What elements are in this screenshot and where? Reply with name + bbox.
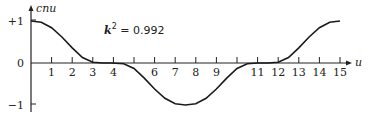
x-tick-label: 11 <box>251 66 265 79</box>
y-tick-label: −1 <box>8 99 24 112</box>
x-tick-label: 7 <box>172 66 179 79</box>
y-axis-arrow-icon <box>29 5 34 11</box>
x-tick-label: 6 <box>151 66 158 79</box>
x-tick-label: 2 <box>69 66 76 79</box>
x-axis-arrow-icon <box>346 61 352 66</box>
x-tick-label: 8 <box>192 66 199 79</box>
x-tick-label: 9 <box>213 66 220 79</box>
y-tick-label: +1 <box>8 15 24 28</box>
x-tick-label: 13 <box>292 66 306 79</box>
x-tick-label: 3 <box>89 66 96 79</box>
x-tick-label: 1 <box>48 66 55 79</box>
axes <box>29 5 353 112</box>
x-tick-label: 4 <box>110 66 117 79</box>
cn-function-chart: 123467891112131415+10−1 cnu u k2 = 0.992 <box>0 0 372 119</box>
x-tick-label: 15 <box>333 66 347 79</box>
x-tick-label: 14 <box>312 66 326 79</box>
x-tick-label: 12 <box>271 66 285 79</box>
y-axis-label: cnu <box>36 2 56 15</box>
k-squared-annotation: k2 = 0.992 <box>104 22 164 37</box>
x-axis-label: u <box>355 56 362 69</box>
y-tick-label: 0 <box>17 57 24 70</box>
